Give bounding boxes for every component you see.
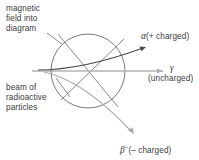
alpha-particle-path [38,48,143,70]
field-label-leader-line [47,33,62,44]
alpha-charge-text: (+ charged) [146,32,189,41]
gamma-ray-arrowhead [157,68,163,73]
beta-particle-path [44,72,131,131]
beta-label: β−(– charged) [120,142,171,156]
gamma-charge-text: (uncharged) [148,74,193,84]
gamma-symbol: γ [170,63,174,73]
magnetic-field-label: magnetic field into diagram [6,4,40,35]
beta-charge-text: (– charged) [128,146,171,155]
chord-line-lower-left [61,39,124,100]
beam-label: beam of radioactive particles [6,83,47,114]
alpha-label: α(+ charged) [141,31,189,42]
diagram-page: magnetic field into diagram beam of radi… [0,0,199,160]
